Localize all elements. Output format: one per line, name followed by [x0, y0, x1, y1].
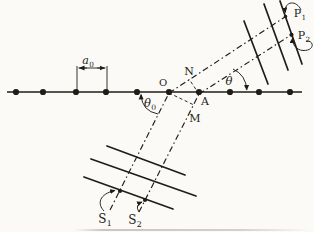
atom-dot — [73, 89, 79, 95]
label-p1-base: P — [294, 7, 302, 20]
label-n: N — [184, 65, 194, 78]
atom-dot — [166, 89, 172, 95]
label-a: A — [200, 95, 210, 108]
label-theta-base: θ — [226, 74, 233, 88]
label-p1-subscript: 1 — [302, 13, 307, 22]
s1-pointer-arrow — [100, 191, 115, 212]
label-theta: θ — [226, 74, 233, 88]
atom-dot — [227, 89, 233, 95]
label-s2: S2 — [128, 213, 142, 229]
label-p1: P1 — [294, 7, 306, 22]
diffraction-diagram: OANMθθ0a0S1S2P1P2 — [0, 0, 314, 232]
label-o-base: O — [159, 77, 167, 88]
atom-dot — [40, 89, 46, 95]
incident-wavefront-3 — [84, 177, 173, 209]
perpendicular-om — [169, 93, 194, 105]
theta0-arc-arrowhead — [139, 94, 144, 100]
label-a-base: A — [200, 95, 210, 108]
p1-wavefront-point — [284, 15, 287, 18]
label-p2-base: P — [298, 29, 306, 42]
p2-wavefront-point — [289, 33, 293, 37]
label-theta0-base: θ — [144, 96, 151, 110]
label-a0: a0 — [82, 54, 94, 69]
label-s1-base: S — [98, 212, 106, 226]
atom-dot — [103, 89, 109, 95]
label-o: O — [159, 77, 167, 88]
label-theta0-subscript: 0 — [151, 103, 156, 112]
label-s1: S1 — [98, 212, 112, 228]
atom-dot — [256, 89, 262, 95]
label-a0-base: a — [82, 54, 89, 67]
label-theta0: θ0 — [144, 96, 156, 112]
s1-wavefront-point — [118, 189, 122, 193]
atom-dot — [13, 89, 19, 95]
label-s1-subscript: 1 — [107, 219, 112, 228]
theta-angle-arc — [233, 69, 247, 90]
label-s2-base: S — [128, 213, 136, 227]
incident-wavefront-1 — [107, 146, 185, 175]
label-s2-subscript: 2 — [137, 220, 142, 229]
figure-canvas: OANMθθ0a0S1S2P1P2 — [0, 0, 314, 232]
label-m-base: M — [189, 112, 200, 125]
label-m: M — [189, 112, 200, 125]
label-p2: P2 — [298, 29, 310, 44]
scan-artifact-line — [74, 229, 310, 231]
label-a0-subscript: 0 — [89, 60, 94, 69]
label-p2-subscript: 2 — [306, 35, 311, 44]
s2-wavefront-point — [143, 198, 147, 202]
label-n-base: N — [184, 65, 194, 78]
atom-dot — [287, 89, 293, 95]
incident-wavefront-2 — [91, 159, 196, 196]
atom-dot — [134, 89, 140, 95]
